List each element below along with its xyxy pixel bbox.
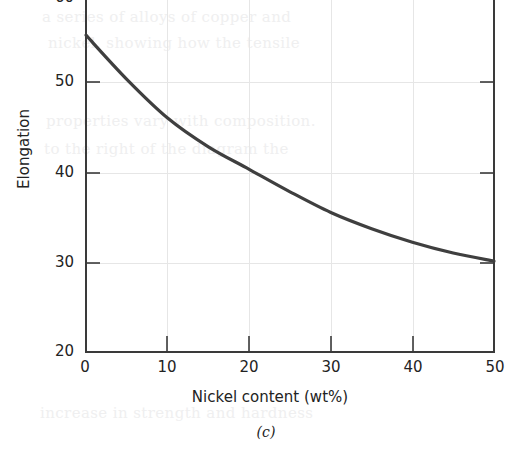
- figure-caption-text: (c): [257, 424, 276, 440]
- y-axis-ticks-right: [480, 82, 494, 263]
- axis-spines: [85, 0, 495, 353]
- grid-horizontal: [85, 82, 495, 263]
- x-axis-title: Nickel content (wt%): [0, 388, 508, 406]
- y-axis-title: Elongation: [15, 89, 33, 209]
- y-axis-ticks: [86, 82, 100, 263]
- x-tick-label-20: 20: [229, 358, 269, 376]
- x-tick-label-30: 30: [311, 358, 351, 376]
- y-tick-label-30: 30: [34, 253, 74, 271]
- x-tick-label-10: 10: [147, 358, 187, 376]
- y-tick-label-60: 60: [34, 0, 74, 6]
- x-tick-label-50: 50: [475, 358, 508, 376]
- data-curve-elongation: [86, 35, 494, 261]
- y-tick-label-50: 50: [34, 72, 74, 90]
- y-tick-label-40: 40: [34, 163, 74, 181]
- grid-vertical: [167, 0, 413, 353]
- figure-panel-c: a series of alloys of copper and nickel,…: [0, 0, 508, 456]
- x-tick-label-40: 40: [393, 358, 433, 376]
- x-axis-title-text: Nickel content (wt%): [192, 388, 348, 406]
- x-tick-label-0: 0: [65, 358, 105, 376]
- figure-caption: (c): [0, 424, 508, 440]
- x-axis-ticks: [167, 336, 413, 352]
